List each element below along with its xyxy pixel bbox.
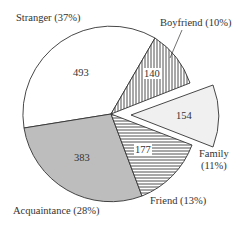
label-boyfriend: Boyfriend (10%) [160, 17, 231, 29]
boyfriend-leader-line [170, 30, 182, 58]
label-family-pct: (11%) [199, 160, 229, 172]
value-stranger: 493 [73, 67, 89, 78]
value-acquaintance: 383 [74, 152, 90, 163]
value-friend: 177 [134, 144, 152, 155]
pie-chart [0, 0, 246, 226]
label-acquaintance: Acquaintance (28%) [13, 205, 100, 217]
label-stranger: Stranger (37%) [16, 12, 80, 24]
value-family: 154 [176, 110, 192, 121]
label-family-name: Family [199, 148, 229, 160]
label-family: Family (11%) [199, 148, 229, 172]
value-boyfriend: 140 [143, 68, 161, 79]
label-friend: Friend (13%) [150, 195, 206, 207]
